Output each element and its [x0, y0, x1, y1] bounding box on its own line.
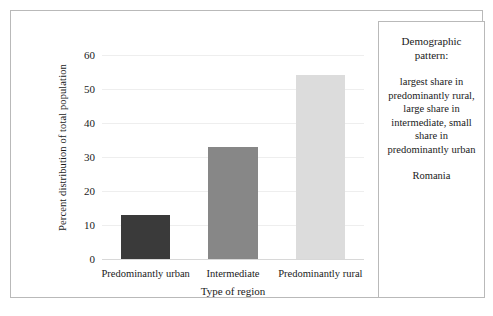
- bar-intermediate: [208, 147, 257, 259]
- x-tick-label-0: Predominantly urban: [101, 268, 189, 279]
- y-tick-label-20: 20: [84, 185, 95, 197]
- info-panel-heading: Demographic pattern:: [385, 34, 478, 62]
- gridline-0: [102, 259, 364, 260]
- bar-chart-panel: Percent distribution of total population…: [22, 22, 369, 308]
- info-panel-country: Romania: [385, 169, 478, 183]
- y-tick-label-30: 30: [84, 151, 95, 163]
- y-tick-label-10: 10: [84, 219, 95, 231]
- y-tick-label-60: 60: [84, 49, 95, 61]
- y-tick-label-40: 40: [84, 117, 95, 129]
- demographic-pattern-panel: Demographic pattern: largest share in pr…: [378, 21, 485, 298]
- info-panel-description: largest share in predominantly rural, la…: [385, 75, 478, 156]
- x-axis-title: Type of region: [102, 285, 364, 297]
- bars-layer: [102, 55, 364, 259]
- y-axis-title: Percent distribution of total population: [57, 48, 68, 248]
- x-tick-label-1: Intermediate: [206, 268, 259, 279]
- x-tick-label-2: Predominantly rural: [278, 268, 362, 279]
- figure-outer-frame: Percent distribution of total population…: [10, 10, 483, 298]
- bar-predominantly-rural: [296, 75, 345, 259]
- y-tick-label-0: 0: [90, 253, 96, 265]
- bar-predominantly-urban: [121, 215, 170, 259]
- plot-area: 0102030405060 Predominantly urbanInterme…: [102, 55, 364, 259]
- y-tick-label-50: 50: [84, 83, 95, 95]
